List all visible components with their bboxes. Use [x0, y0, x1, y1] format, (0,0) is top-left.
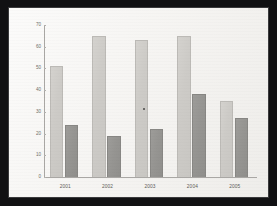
y-axis-tick-mark — [44, 177, 46, 178]
photo-border: 010203040506070 20012002200320042005 — [0, 0, 277, 206]
y-axis-tick-mark — [44, 68, 46, 69]
bar-2001-series2 — [65, 125, 79, 177]
bar-2001-series1 — [50, 66, 64, 177]
y-axis-tick-label: 10 — [18, 151, 44, 159]
bar-2005-series1 — [220, 101, 234, 177]
bar-2005-series2 — [235, 118, 249, 177]
x-axis-label-2001: 2001 — [44, 183, 86, 190]
y-axis-tick-label: 40 — [18, 86, 44, 94]
x-axis-line — [44, 177, 257, 178]
bar-2002-series2 — [107, 136, 121, 177]
y-axis-tick-mark — [44, 90, 46, 91]
y-axis-tick-mark — [44, 25, 46, 26]
y-axis-tick-label: 50 — [18, 64, 44, 72]
chart-paper: 010203040506070 20012002200320042005 — [8, 7, 269, 198]
bar-2004-series2 — [192, 94, 206, 177]
bar-2002-series1 — [92, 36, 106, 177]
x-axis-label-2004: 2004 — [171, 183, 213, 190]
x-axis-label-2003: 2003 — [129, 183, 171, 190]
y-axis-tick-mark — [44, 134, 46, 135]
bar-2004-series1 — [177, 36, 191, 177]
y-axis-tick-mark — [44, 47, 46, 48]
y-axis-tick-mark — [44, 112, 46, 113]
y-axis-tick-label: 60 — [18, 43, 44, 51]
bar-2003-series2 — [150, 129, 164, 177]
bar-chart: 010203040506070 20012002200320042005 — [18, 15, 266, 206]
x-axis-label-2005: 2005 — [214, 183, 256, 190]
scan-speck-icon — [143, 108, 145, 110]
y-axis-tick-label: 0 — [18, 173, 44, 181]
y-axis-tick-label: 20 — [18, 130, 44, 138]
bar-2003-series1 — [135, 40, 149, 177]
y-axis-tick-label: 30 — [18, 108, 44, 116]
y-axis-tick-label: 70 — [18, 21, 44, 29]
y-axis-tick-mark — [44, 155, 46, 156]
x-axis-label-2002: 2002 — [86, 183, 128, 190]
